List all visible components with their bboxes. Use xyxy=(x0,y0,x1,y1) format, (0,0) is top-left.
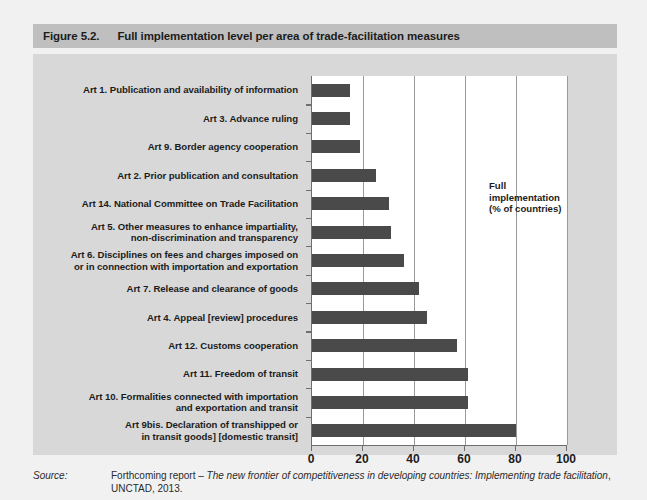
figure-title: Full implementation level per area of tr… xyxy=(117,30,459,42)
gridline xyxy=(465,76,466,445)
y-axis-tick xyxy=(306,303,311,304)
bar xyxy=(312,424,516,437)
y-axis-tick xyxy=(306,360,311,361)
bar xyxy=(312,254,404,267)
gridline xyxy=(414,76,415,445)
figure-number: Figure 5.2. xyxy=(43,30,99,42)
y-axis-tick xyxy=(306,388,311,389)
gridline xyxy=(516,76,517,445)
y-axis-tick xyxy=(306,417,311,418)
x-axis-tick-label: 100 xyxy=(556,452,576,466)
bar xyxy=(312,339,457,352)
bar-category-label: Art 5. Other measures to enhance imparti… xyxy=(91,221,298,244)
bar xyxy=(312,197,389,210)
source-text: Forthcoming report – The new frontier of… xyxy=(111,470,631,495)
y-axis-tick xyxy=(306,331,311,332)
bar xyxy=(312,84,350,97)
source-title: The new frontier of competitiveness in d… xyxy=(207,470,608,481)
y-axis-tick xyxy=(306,218,311,219)
x-axis-tick xyxy=(464,446,465,451)
y-axis-tick xyxy=(306,133,311,134)
bar-category-label: Art 9. Border agency cooperation xyxy=(148,141,298,153)
x-axis-tick xyxy=(515,446,516,451)
bar-category-label: Art 11. Freedom of transit xyxy=(183,368,298,380)
bar xyxy=(312,311,427,324)
x-axis-tick-label: 0 xyxy=(308,452,315,466)
y-axis-tick xyxy=(306,190,311,191)
x-axis-tick xyxy=(566,446,567,451)
legend-label: Full implementation (% of countries) xyxy=(489,180,562,215)
bar-category-label: Art 7. Release and clearance of goods xyxy=(127,283,298,295)
figure-title-bar: Figure 5.2. Full implementation level pe… xyxy=(33,24,617,48)
bar-category-label: Art 4. Appeal [review] procedures xyxy=(147,312,298,324)
x-axis-tick-label: 20 xyxy=(355,452,368,466)
x-axis-tick-label: 60 xyxy=(457,452,470,466)
bar-category-label: Art 1. Publication and availability of i… xyxy=(83,84,298,96)
y-axis-tick xyxy=(306,161,311,162)
x-axis-tick xyxy=(311,446,312,451)
bar-category-label: Art 10. Formalities connected with impor… xyxy=(89,391,298,414)
bar xyxy=(312,282,419,295)
y-axis-tick xyxy=(306,104,311,105)
bar-category-label: Art 14. National Committee on Trade Faci… xyxy=(82,198,298,210)
gridline xyxy=(567,76,568,445)
bar-category-label: Art 6. Disciplines on fees and charges i… xyxy=(71,249,298,272)
chart-panel: Art 1. Publication and availability of i… xyxy=(33,54,617,455)
x-axis-tick-label: 40 xyxy=(406,452,419,466)
source-label: Source: xyxy=(33,470,67,483)
bar xyxy=(312,112,350,125)
y-axis-tick xyxy=(306,275,311,276)
x-axis-tick xyxy=(362,446,363,451)
bar xyxy=(312,226,391,239)
bar xyxy=(312,396,468,409)
bar xyxy=(312,368,468,381)
bar-category-label: Art 9bis. Declaration of transhipped or … xyxy=(125,419,298,442)
x-axis-tick xyxy=(413,446,414,451)
figure-page: Figure 5.2. Full implementation level pe… xyxy=(0,0,647,500)
bar-category-label: Art 2. Prior publication and consultatio… xyxy=(117,170,298,182)
bar xyxy=(312,140,360,153)
x-axis-line xyxy=(311,445,567,446)
y-axis-tick xyxy=(306,246,311,247)
source-prefix: Forthcoming report – xyxy=(111,470,207,481)
bar-category-label: Art 3. Advance ruling xyxy=(203,113,298,125)
x-axis-tick-label: 80 xyxy=(508,452,521,466)
bar xyxy=(312,169,376,182)
bar-category-label: Art 12. Customs cooperation xyxy=(168,340,298,352)
